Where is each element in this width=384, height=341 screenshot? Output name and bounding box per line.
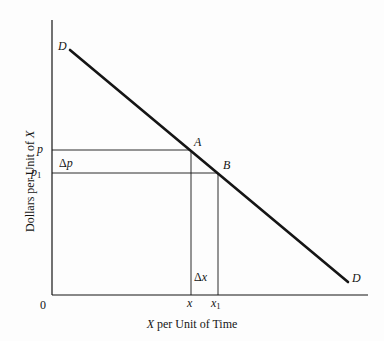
origin-label: 0 bbox=[40, 299, 46, 311]
x-axis-title-text: per Unit of Time bbox=[154, 317, 237, 331]
x-axis-title: X per Unit of Time bbox=[0, 318, 384, 330]
point-b-label: B bbox=[223, 159, 230, 171]
x-tick-label-x1-subscript: 1 bbox=[216, 301, 220, 311]
delta-p-label: Δp bbox=[59, 157, 73, 169]
demand-curve-label-top: D bbox=[58, 40, 67, 52]
demand-curve-label-bottom: D bbox=[352, 272, 361, 284]
demand-curve-figure: D D A B p p1 x x1 0 Δp Δx X per Unit of … bbox=[0, 0, 384, 341]
delta-x-symbol: Δ bbox=[194, 270, 202, 284]
x-tick-label-x: x bbox=[187, 297, 192, 309]
y-tick-label-p: p bbox=[37, 143, 43, 155]
delta-x-variable: x bbox=[202, 270, 207, 284]
demand-curve bbox=[70, 50, 348, 282]
delta-p-symbol: Δ bbox=[59, 156, 67, 170]
x-tick-label-x1: x1 bbox=[211, 297, 221, 311]
y-axis-title-text: Dollars per Unit of bbox=[23, 138, 37, 232]
y-axis-title: Dollars per Unit of X bbox=[24, 32, 36, 232]
point-a-label: A bbox=[194, 136, 201, 148]
y-tick-label-p1-subscript: 1 bbox=[37, 170, 41, 180]
y-axis-title-variable: X bbox=[23, 131, 37, 138]
delta-x-label: Δx bbox=[194, 271, 207, 283]
delta-p-variable: p bbox=[67, 156, 73, 170]
x-axis-title-variable: X bbox=[147, 317, 154, 331]
